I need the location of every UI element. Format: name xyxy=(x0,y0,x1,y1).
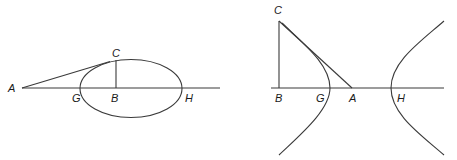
label-c: C xyxy=(274,4,282,16)
hyperbola-figure: C B G A H xyxy=(271,4,444,155)
tangent-line-ac xyxy=(22,62,110,89)
label-g: G xyxy=(72,92,81,104)
ellipse-figure: A C G B H xyxy=(7,47,220,118)
label-a: A xyxy=(348,92,356,104)
label-a: A xyxy=(7,82,15,94)
hyperbola-left-branch xyxy=(279,23,330,155)
label-g: G xyxy=(316,92,325,104)
label-c: C xyxy=(112,47,120,59)
conic-diagrams: A C G B H C B G A H xyxy=(0,0,457,160)
label-b: B xyxy=(275,92,282,104)
label-h: H xyxy=(397,92,405,104)
label-b: B xyxy=(111,92,118,104)
label-h: H xyxy=(185,92,193,104)
